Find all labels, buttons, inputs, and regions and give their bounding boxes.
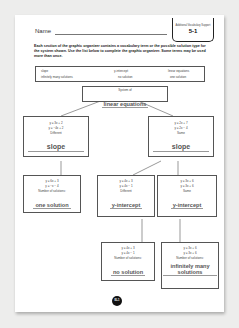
relation-label: Same	[149, 131, 213, 135]
answer: y-intercept	[110, 202, 143, 209]
equation: y = 3x + 6	[162, 251, 218, 256]
instructions: Each section of the graphic organizer co…	[34, 44, 208, 60]
tab-subtitle: Additional Vocabulary Support	[173, 24, 213, 27]
one-solution-box: y = 6x + 3 y = −x − 4 Number of solution…	[23, 175, 81, 213]
answer: slope	[153, 143, 209, 152]
organizer-root-box: System of linear equations	[82, 86, 168, 102]
different-slope-box: y = 3x + 2 y = −4x + 2 Different slope	[23, 116, 89, 157]
page-number-badge: EL1	[112, 296, 122, 306]
relation-label: Number of solutions:	[24, 189, 80, 193]
same-slope-box: y = 2x + 7 y = 2x − 4 Same slope	[148, 116, 214, 157]
worksheet-page: Name Additional Vocabulary Support 5-1 E…	[15, 15, 224, 312]
equation: y = 2x − 4	[149, 126, 213, 131]
answer: slope	[28, 143, 84, 152]
lesson-tab: Additional Vocabulary Support 5-1	[172, 18, 214, 42]
name-label: Name	[35, 28, 51, 34]
word-bank-item: infinitely many solutions	[41, 75, 73, 79]
no-solution-box: y = 4x + 3 y = 4x − 1 Number of solution…	[101, 242, 155, 281]
word-bank-item: no solution	[118, 75, 133, 79]
relation-label: Number of solutions:	[162, 256, 218, 260]
equation: y = −x − 4	[24, 184, 80, 189]
answer: y-intercept	[171, 202, 204, 209]
different-intercept-box: y = 4x + 3 y = 4x − 1 Different y-interc…	[97, 175, 155, 217]
word-bank-item: linear equations	[168, 69, 189, 73]
equation: y = 4x − 1	[98, 184, 154, 189]
word-bank-item: slope	[41, 69, 48, 73]
root-label: System of	[83, 88, 167, 92]
word-bank-item: one solution	[170, 75, 186, 79]
relation-label: Different	[98, 189, 154, 193]
answer: no solution	[111, 269, 145, 276]
infinite-solutions-box: y = 3x + 6 y = 3x + 6 Number of solution…	[161, 242, 219, 289]
same-intercept-box: y = 3x + 6 y = 3x + 6 Same y-intercept	[157, 175, 217, 217]
answer: infinitely many solutions	[163, 263, 217, 276]
root-answer: linear equations	[102, 101, 149, 108]
relation-label: Different	[24, 131, 88, 135]
relation-label: Same	[158, 189, 216, 193]
equation: y = 4x − 1	[102, 251, 154, 256]
equation: y = −4x + 2	[24, 126, 88, 131]
word-bank-item: y-intercept	[114, 69, 128, 73]
relation-label: Number of solutions:	[102, 256, 154, 260]
lesson-number: 5-1	[173, 28, 213, 34]
word-bank: slope y-intercept linear equations infin…	[35, 66, 205, 82]
answer: one solution	[33, 202, 70, 209]
equation: y = 3x + 6	[158, 184, 216, 189]
name-input-line[interactable]	[55, 34, 167, 35]
